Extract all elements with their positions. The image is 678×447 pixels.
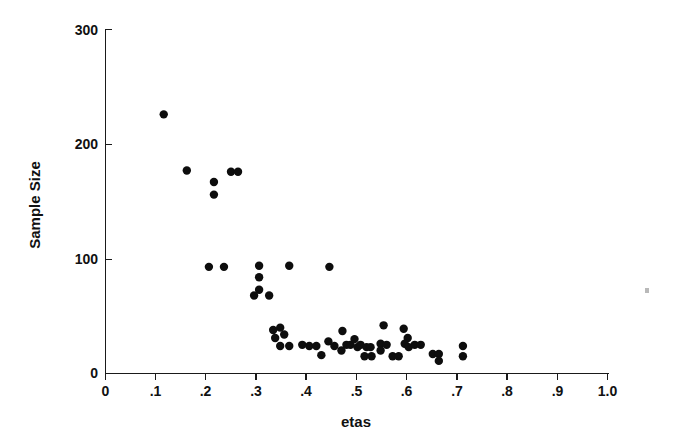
data-point (183, 166, 191, 174)
x-axis-ticks: 0 .1 .2 .3 .4 .5 .6 .7 .8 .9 1.0 (102, 374, 618, 400)
x-tick-label-0.3: .3 (250, 383, 262, 399)
x-tick-label-0.7: .7 (451, 383, 463, 399)
data-point (367, 352, 375, 360)
data-point (312, 342, 320, 350)
data-point (417, 341, 425, 349)
data-point (210, 190, 218, 198)
data-point (379, 321, 387, 329)
data-point (435, 357, 443, 365)
data-point (210, 178, 218, 186)
data-point (250, 291, 258, 299)
x-tick-label-0.5: .5 (351, 383, 363, 399)
data-point (394, 352, 402, 360)
x-tick-label-0.9: .9 (552, 383, 564, 399)
data-points-layer (160, 110, 468, 365)
x-tick-label-0.8: .8 (501, 383, 513, 399)
x-tick-label-0.4: .4 (300, 383, 312, 399)
data-point (234, 167, 242, 175)
data-point (160, 110, 168, 118)
data-point (280, 330, 288, 338)
data-point (276, 342, 284, 350)
data-point (269, 326, 277, 334)
y-tick-label-200: 200 (75, 136, 99, 152)
data-point (317, 351, 325, 359)
plot-canvas: 300 200 100 0 0 .1 .2 .3 .4 .5 .6 .7 (0, 0, 678, 447)
data-point (285, 262, 293, 270)
scatter-plot-figure: 300 200 100 0 0 .1 .2 .3 .4 .5 .6 .7 (0, 0, 678, 447)
data-point (255, 262, 263, 270)
data-point (459, 352, 467, 360)
data-point (399, 325, 407, 333)
data-point (366, 343, 374, 351)
x-tick-label-0: 0 (102, 383, 110, 399)
x-axis-title: etas (341, 413, 371, 430)
data-point (220, 263, 228, 271)
y-tick-label-300: 300 (75, 22, 99, 38)
y-axis-title: Sample Size (26, 161, 43, 249)
x-tick-label-1.0: 1.0 (598, 383, 618, 399)
x-tick-label-0.2: .2 (200, 383, 212, 399)
x-tick-label-0.6: .6 (401, 383, 413, 399)
data-point (382, 341, 390, 349)
data-point (205, 263, 213, 271)
data-point (265, 291, 273, 299)
data-point (271, 334, 279, 342)
data-point (285, 342, 293, 350)
data-point (337, 346, 345, 354)
data-point (255, 273, 263, 281)
y-tick-label-100: 100 (75, 251, 99, 267)
axes-group (106, 29, 609, 374)
x-tick-label-0.1: .1 (150, 383, 162, 399)
data-point (325, 263, 333, 271)
data-point (338, 327, 346, 335)
y-tick-label-0: 0 (90, 365, 98, 381)
data-point (459, 342, 467, 350)
scan-artifact-speck (645, 288, 649, 293)
data-point (330, 342, 338, 350)
data-point (298, 341, 306, 349)
